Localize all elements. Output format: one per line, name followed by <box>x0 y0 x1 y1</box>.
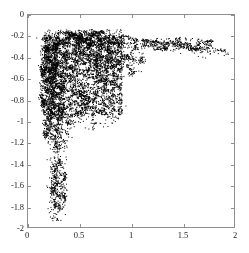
y-tick-label: -1.6 <box>11 181 24 190</box>
y-tick-mark-right <box>231 143 234 144</box>
x-tick-mark <box>80 224 81 227</box>
y-tick-label: -1 <box>17 117 24 126</box>
x-tick-label: 1 <box>129 231 133 240</box>
y-tick-mark-right <box>231 101 234 102</box>
y-tick-label: -0.8 <box>11 95 24 104</box>
y-tick-mark <box>28 58 31 59</box>
y-tick-mark-right <box>231 36 234 37</box>
x-tick-label: 1.5 <box>178 231 188 240</box>
plot-axes-area <box>27 14 235 228</box>
y-tick-mark-right <box>231 58 234 59</box>
y-tick-mark <box>28 208 31 209</box>
y-tick-mark-right <box>231 165 234 166</box>
y-tick-mark-right <box>231 15 234 16</box>
y-tick-mark <box>28 101 31 102</box>
y-tick-label: 0 <box>20 10 24 19</box>
x-tick-mark <box>28 224 29 227</box>
y-tick-label: -0.4 <box>11 53 24 62</box>
y-tick-mark <box>28 36 31 37</box>
y-tick-label: -1.4 <box>11 160 24 169</box>
y-tick-label: -2 <box>17 224 24 233</box>
x-tick-mark-top <box>132 15 133 18</box>
x-tick-mark <box>132 224 133 227</box>
y-tick-label: -1.8 <box>11 202 24 211</box>
y-tick-mark-right <box>231 79 234 80</box>
x-tick-mark <box>184 224 185 227</box>
y-tick-mark <box>28 79 31 80</box>
y-tick-mark-right <box>231 186 234 187</box>
y-tick-mark <box>28 122 31 123</box>
x-tick-mark-top <box>28 15 29 18</box>
x-tick-mark-top <box>184 15 185 18</box>
y-tick-mark <box>28 143 31 144</box>
y-tick-mark-right <box>231 122 234 123</box>
scatter-plot-figure: 0-0.2-0.4-0.6-0.8-1-1.2-1.4-1.6-1.8-2 00… <box>0 0 249 253</box>
y-tick-label: -1.2 <box>11 138 24 147</box>
scatter-points-layer <box>28 15 235 228</box>
y-tick-mark <box>28 186 31 187</box>
x-tick-mark-top <box>80 15 81 18</box>
x-tick-label: 2 <box>233 231 237 240</box>
x-tick-label: 0.5 <box>74 231 84 240</box>
y-tick-mark <box>28 165 31 166</box>
x-tick-label: 0 <box>25 231 29 240</box>
y-tick-label: -0.6 <box>11 74 24 83</box>
y-tick-mark-right <box>231 208 234 209</box>
y-tick-label: -0.2 <box>11 31 24 40</box>
